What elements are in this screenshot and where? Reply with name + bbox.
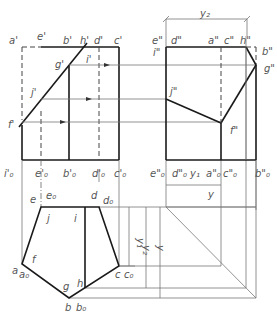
label-d-prime: d' (94, 35, 103, 46)
label-d0-dbl: d"₀ (172, 168, 187, 179)
front-view (19, 43, 119, 160)
label-j: j (45, 213, 50, 224)
label-h-dbl: h" (240, 35, 251, 46)
dim-y-top: y (155, 244, 166, 252)
label-d0-prime: d'₀ (92, 168, 105, 179)
label-i-dbl: i" (153, 47, 160, 58)
label-b0-dbl: b"₀ (255, 168, 270, 179)
label-c0-dbl: c"₀ (223, 168, 237, 179)
label-b-dbl: b" (262, 46, 273, 57)
label-e0: e₀ (46, 190, 56, 201)
label-e0-prime: e'₀ (35, 168, 48, 179)
label-g: g (63, 281, 69, 292)
projection-drawing: a' e' b' h' d' c' g' i' j' f' i'₀ e'₀ b'… (0, 0, 277, 319)
label-f-prime: f' (8, 119, 14, 130)
label-g-prime: g' (55, 59, 64, 70)
label-c: c (115, 269, 121, 280)
label-j-dbl: j" (168, 86, 177, 97)
label-a-prime: a' (9, 35, 18, 46)
label-d0: d₀ (103, 195, 113, 206)
label-f: f (32, 254, 37, 265)
label-e: e (30, 194, 36, 205)
dim-y1-side: y₁ (189, 168, 200, 179)
projection-lines (22, 47, 256, 298)
label-a-dbl: a" (208, 35, 219, 46)
label-a0: a₀ (19, 269, 29, 280)
label-h-prime: h' (80, 35, 89, 46)
label-a0-dbl: a"₀ (206, 168, 221, 179)
dim-y2-top: y₂ (141, 244, 152, 255)
label-d: d (91, 190, 98, 201)
label-c-dbl: c" (224, 35, 234, 46)
label-g-dbl: g" (264, 63, 275, 74)
label-b0: b₀ (76, 302, 86, 313)
label-e-prime: e' (37, 31, 46, 42)
dim-y-side: y (207, 189, 215, 200)
label-i: i (74, 213, 77, 224)
label-c0: c₀ (124, 269, 134, 280)
label-b-prime: b' (63, 35, 72, 46)
top-view (22, 207, 160, 298)
label-h: h (77, 278, 83, 289)
label-f-dbl: f" (230, 125, 238, 136)
label-b: b (65, 302, 71, 313)
label-c0-prime: c'₀ (114, 168, 126, 179)
label-e0-dbl: e"₀ (150, 168, 165, 179)
label-d-dbl: d" (171, 35, 182, 46)
label-a: a (12, 265, 18, 276)
dim-y2-top: y₂ (199, 8, 210, 19)
label-e-dbl: e" (152, 35, 163, 46)
label-b0-prime: b'₀ (63, 168, 76, 179)
label-c-prime: c' (114, 35, 122, 46)
label-j-prime: j' (29, 87, 37, 98)
label-i0-prime: i'₀ (4, 168, 14, 179)
label-i-prime: i' (86, 54, 92, 65)
